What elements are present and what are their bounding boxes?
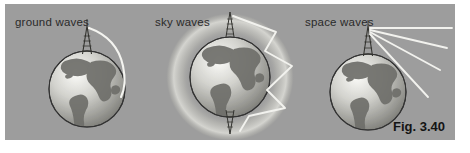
figure-radio-wave-propagation: ground waves sky waves space waves Fig. … <box>0 0 470 153</box>
label-sky-waves: sky waves <box>155 16 210 28</box>
figure-panel: ground waves sky waves space waves Fig. … <box>5 4 455 140</box>
globe-ground <box>49 51 125 131</box>
label-ground-waves: ground waves <box>15 16 89 28</box>
label-space-waves: space waves <box>305 16 374 28</box>
figure-caption: Fig. 3.40 <box>393 119 445 134</box>
